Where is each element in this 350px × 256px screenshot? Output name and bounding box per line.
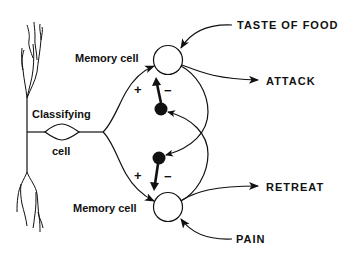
memory-cell-top-label: Memory cell: [75, 52, 139, 64]
interneuron-top: [155, 103, 168, 116]
sign-minus-top: −: [164, 83, 172, 98]
excitatory-branch-bottom: [103, 132, 154, 201]
memory-cell-bottom-label: Memory cell: [73, 202, 137, 214]
inhibitory-arrow-top: [157, 84, 161, 103]
output-retreat-arrow: [182, 186, 258, 200]
feedback-top-to-bottom-interneuron: [166, 66, 208, 155]
output-attack-arrow: [182, 65, 258, 80]
output-retreat-label: RETREAT: [266, 181, 324, 193]
classifying-cell-label-line1: Classifying: [32, 108, 91, 120]
input-pain-arrow: [181, 219, 232, 239]
diagram-canvas: Memory cell Memory cell Classifying cell…: [0, 0, 350, 256]
input-taste-label: TASTE OF FOOD: [237, 19, 338, 31]
inhibitory-arrowhead-bottom: [150, 182, 159, 191]
classifying-cell-body: [45, 124, 79, 140]
excitatory-branch-top: [103, 66, 154, 132]
output-attack-label: ATTACK: [266, 75, 316, 87]
sign-plus-top: +: [134, 82, 142, 97]
inhibitory-arrow-bottom: [155, 164, 158, 184]
memory-cell-bottom: [154, 193, 183, 222]
input-taste-arrow: [181, 25, 232, 48]
classifying-cell-label-line2: cell: [52, 145, 70, 157]
sign-minus-bottom: −: [164, 169, 172, 184]
sign-plus-bottom: +: [134, 168, 142, 183]
dendrites-bottom: [17, 172, 43, 232]
interneuron-bottom: [153, 152, 166, 165]
memory-cell-top: [154, 46, 183, 75]
feedback-bottom-to-top-interneuron: [168, 112, 208, 201]
inhibitory-arrowhead-top: [152, 77, 161, 86]
dendrites-top: [22, 22, 43, 98]
input-pain-label: PAIN: [236, 233, 265, 245]
